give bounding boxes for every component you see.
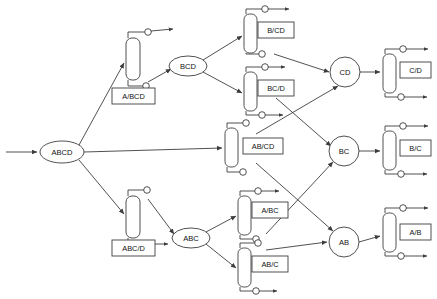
edge-abc-ab-c [206,244,236,268]
edge-ab-cd-ab [256,163,333,231]
reboiler-line-bc-d [246,111,259,115]
state-node-ab-label: AB [339,238,349,247]
diagram-canvas: A/BCD ABC/D B/CD BC/D [0,0,437,299]
condenser-line-a-bcd [128,32,146,38]
edge-abc-a-bc [206,216,236,232]
column-shell-a-b [383,213,396,252]
reboiler-icon-a-b [398,253,405,260]
edge-bc-d-bc [276,98,331,146]
reboiler-line-b-c [385,170,398,174]
condenser-icon-bc-d [262,64,269,71]
column-shell-bc-d [244,72,257,111]
reboiler-line-c-d [385,93,398,97]
column-shell-a-bc [238,196,251,235]
reboiler-icon-ab-cd [240,169,247,176]
condenser-line-c-d [385,49,400,54]
edge-b-cd-cd [274,54,329,72]
reboiler-line-ab-cd [227,167,240,172]
condenser-icon-b-cd [262,6,269,13]
reboiler-line-a-b [385,252,398,256]
edge-ab-a-b [359,236,380,242]
condenser-line-b-c [385,126,400,131]
column-label-b-cd: B/CD [267,26,285,35]
state-node-cd-label: CD [340,68,351,77]
condenser-line-b-cd [246,9,262,14]
column-shell-a-bcd [126,38,140,80]
column-shell-c-d [383,54,396,93]
condenser-line-a-b [385,208,400,213]
condenser-icon-ab-c [255,240,262,247]
column-label-bc-d: BC/D [267,84,285,93]
edge-ab-c-ab [266,242,327,250]
column-shell-b-c [383,131,396,170]
reboiler-line-a-bc [240,235,253,239]
column-unit-c-d[interactable]: C/D [383,46,431,101]
state-node-cd[interactable]: CD [330,57,360,87]
condenser-icon-a-b [400,205,407,212]
column-unit-bc-d[interactable]: BC/D [244,64,294,119]
condenser-line-bc-d [246,67,262,72]
column-label-c-d: C/D [409,66,422,75]
column-unit-a-bcd[interactable]: A/BCD [112,29,173,104]
column-shell-b-cd [244,14,257,53]
state-node-abcd[interactable]: ABCD [40,141,84,163]
condenser-icon-b-c [400,123,407,130]
column-unit-a-b[interactable]: A/B [383,205,431,260]
edge-abcd-abc-d [79,160,124,214]
column-label-a-b: A/B [410,228,422,237]
condenser-icon-c-d [400,46,407,53]
column-label-ab-c: AB/C [261,260,279,269]
column-shell-abc-d [126,196,140,238]
reboiler-icon-b-c [398,171,405,178]
column-shell-ab-c [238,248,251,287]
column-label-ab-cd: AB/CD [252,142,275,151]
column-unit-abc-d[interactable]: ABC/D [112,187,168,256]
column-label-a-bc: A/BC [261,206,279,215]
state-node-bcd-label: BCD [180,62,197,71]
condenser-icon-a-bc [255,188,262,195]
condenser-line-ab-c [240,243,255,248]
reboiler-icon-bc-d [259,112,266,119]
reboiler-line-ab-c [240,287,253,291]
edge-abc-d-abc [148,199,174,234]
reboiler-icon-ab-c [253,288,260,295]
edge-a-bcd-bcd [148,69,171,82]
reboiler-icon-b-cd [259,51,266,58]
edge-bcd-bc-d [203,72,242,93]
state-node-abc[interactable]: ABC [172,228,210,248]
edge-bcd-b-cd [203,36,242,60]
column-unit-ab-cd[interactable]: AB/CD [225,120,283,176]
condenser-line-abc-d [128,190,144,196]
column-unit-a-bc[interactable]: A/BC [238,188,288,243]
state-node-bc[interactable]: BC [329,136,359,166]
distillate-arrow-a-bcd [151,29,173,31]
column-shell-ab-cd [225,128,238,167]
superstructure-diagram: A/BCD ABC/D B/CD BC/D [0,0,437,299]
edge-abcd-ab-cd [84,148,222,152]
condenser-line-a-bc [240,191,255,196]
column-unit-b-c[interactable]: B/C [383,123,431,178]
column-label-b-c: B/C [409,144,422,153]
edge-a-bc-bc [266,162,333,234]
condenser-icon-a-bcd [145,29,152,36]
column-unit-b-cd[interactable]: B/CD [244,6,294,58]
reboiler-line-a-bcd [128,80,143,86]
state-node-bc-label: BC [339,147,350,156]
column-label-abc-d: ABC/D [122,244,145,253]
condenser-icon-abc-d [144,187,151,194]
state-node-abc-label: ABC [183,234,199,243]
condenser-icon-ab-cd [243,120,250,127]
column-label-a-bcd: A/BCD [122,92,145,101]
state-node-ab[interactable]: AB [329,227,359,257]
state-node-abcd-label: ABCD [51,148,73,157]
reboiler-icon-c-d [398,94,405,101]
condenser-line-ab-cd [227,123,243,128]
state-node-bcd[interactable]: BCD [169,56,207,76]
